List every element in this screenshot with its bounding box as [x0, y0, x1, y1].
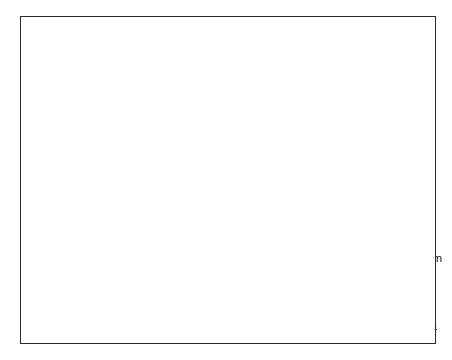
figure-container: 50607080901001101960/21962/21964/21966/2… [0, 0, 452, 360]
figure-frame [20, 16, 436, 344]
